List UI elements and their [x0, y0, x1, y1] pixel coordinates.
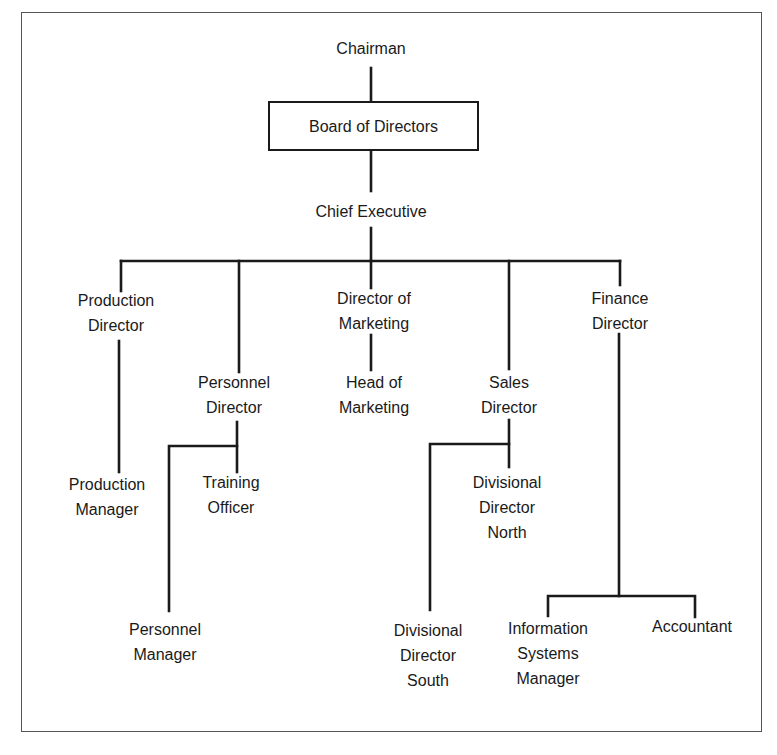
org-node-label-line: Officer	[202, 495, 259, 520]
org-node-label-line: Manager	[508, 666, 588, 691]
org-node-production-director: ProductionDirector	[78, 288, 155, 338]
org-node-board: Board of Directors	[268, 101, 479, 151]
org-node-label-line: Manager	[69, 497, 146, 522]
org-node-label-line: North	[473, 520, 541, 545]
org-node-production-manager: ProductionManager	[69, 472, 146, 522]
org-node-label-line: Accountant	[652, 614, 732, 639]
org-node-label-line: Information	[508, 616, 588, 641]
org-node-label-line: Personnel	[129, 617, 201, 642]
org-node-label-line: Director	[394, 643, 462, 668]
org-node-director-marketing: Director ofMarketing	[337, 286, 411, 336]
org-node-chief-exec: Chief Executive	[315, 199, 426, 224]
org-node-sales-director: SalesDirector	[481, 370, 537, 420]
org-node-accountant: Accountant	[652, 614, 732, 639]
org-node-label-line: Director	[78, 313, 155, 338]
org-node-label-line: Production	[69, 472, 146, 497]
org-node-label-line: Director of	[337, 286, 411, 311]
org-node-finance-director: FinanceDirector	[592, 286, 649, 336]
org-node-head-marketing: Head ofMarketing	[339, 370, 409, 420]
org-node-is-manager: InformationSystemsManager	[508, 616, 588, 691]
org-node-label-line: Systems	[508, 641, 588, 666]
org-node-label-line: Director	[592, 311, 649, 336]
org-node-label-line: Marketing	[337, 311, 411, 336]
org-node-label-line: Divisional	[473, 470, 541, 495]
org-node-personnel-director: PersonnelDirector	[198, 370, 270, 420]
org-node-label-line: Director	[473, 495, 541, 520]
org-node-label-line: Chairman	[336, 36, 405, 61]
org-node-label-line: Board of Directors	[309, 114, 438, 139]
org-node-label-line: Personnel	[198, 370, 270, 395]
org-node-label-line: Divisional	[394, 618, 462, 643]
org-node-label-line: Training	[202, 470, 259, 495]
org-node-personnel-manager: PersonnelManager	[129, 617, 201, 667]
org-node-training-officer: TrainingOfficer	[202, 470, 259, 520]
org-node-label-line: Production	[78, 288, 155, 313]
org-node-label-line: Marketing	[339, 395, 409, 420]
org-node-chairman: Chairman	[336, 36, 405, 61]
org-node-label-line: Sales	[481, 370, 537, 395]
org-node-label-line: Director	[198, 395, 270, 420]
org-node-label-line: Manager	[129, 642, 201, 667]
org-node-label-line: Finance	[592, 286, 649, 311]
org-node-label-line: Chief Executive	[315, 199, 426, 224]
org-node-label-line: South	[394, 668, 462, 693]
org-node-label-line: Head of	[339, 370, 409, 395]
org-node-div-director-north: DivisionalDirectorNorth	[473, 470, 541, 545]
org-node-div-director-south: DivisionalDirectorSouth	[394, 618, 462, 693]
org-node-label-line: Director	[481, 395, 537, 420]
